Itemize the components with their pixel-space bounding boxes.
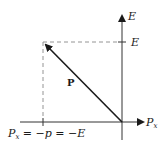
horizontal-axis-label: Px bbox=[145, 116, 157, 130]
diagram-canvas: E E Px P Px = −p = −E bbox=[0, 0, 164, 147]
vector-label: P bbox=[67, 77, 75, 88]
bottom-label: Px = −p = −E bbox=[7, 127, 85, 141]
momentum-vector bbox=[46, 45, 122, 122]
vertical-axis-tick-label: E bbox=[130, 36, 139, 49]
vertical-axis-label: E bbox=[127, 10, 136, 23]
